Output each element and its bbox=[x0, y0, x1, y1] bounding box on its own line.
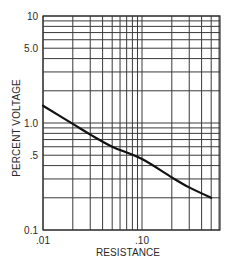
y-tick-label: 10 bbox=[27, 11, 39, 22]
x-tick-label: .01 bbox=[36, 235, 50, 246]
x-axis-tick-labels: .01.10 bbox=[36, 235, 149, 246]
y-tick-label: .5 bbox=[30, 150, 39, 161]
y-tick-label: 5.0 bbox=[24, 43, 38, 54]
x-axis-title: RESISTANCE bbox=[96, 247, 160, 258]
y-tick-label: 0.1 bbox=[24, 225, 38, 236]
x-tick-label: .10 bbox=[135, 235, 149, 246]
y-axis-title: PERCENT VOLTAGE bbox=[11, 79, 22, 177]
log-log-chart: 105.01.0.50.1 .01.10 RESISTANCE PERCENT … bbox=[0, 0, 230, 269]
y-tick-label: 1.0 bbox=[24, 118, 38, 129]
y-axis-tick-labels: 105.01.0.50.1 bbox=[24, 11, 38, 236]
